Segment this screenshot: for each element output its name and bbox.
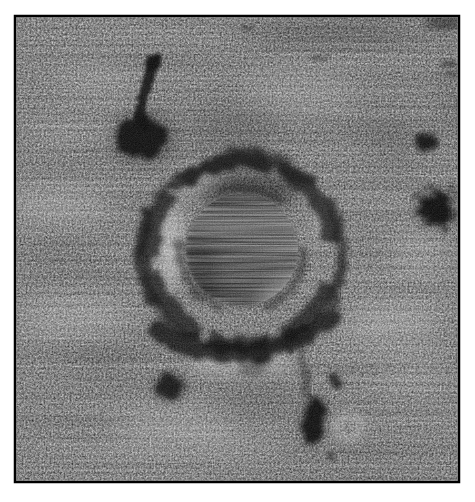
micrograph-canvas bbox=[0, 0, 475, 502]
micrograph-figure bbox=[0, 0, 475, 502]
micrograph-content bbox=[5, 16, 466, 481]
unifying-grain-layer bbox=[16, 17, 458, 481]
